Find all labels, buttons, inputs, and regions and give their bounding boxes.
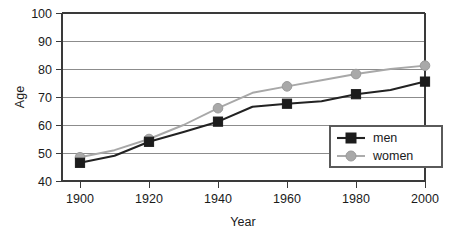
legend-women-label: women (372, 149, 413, 163)
y-tick-label-90: 90 (38, 35, 52, 49)
data-point-women-1980 (351, 69, 361, 79)
data-point-men-1960 (282, 99, 291, 108)
legend-women-marker (346, 151, 356, 161)
line-chart: 100 90 80 70 60 50 40 1900 1920 1940 196… (0, 0, 449, 239)
y-tick-label-80: 80 (38, 63, 52, 77)
data-point-women-2000 (420, 61, 430, 71)
y-tick-label-40: 40 (38, 175, 52, 189)
x-axis-title: Year (230, 215, 255, 229)
data-point-men-1920 (144, 137, 153, 146)
legend-men-label: men (373, 131, 397, 145)
x-tick-label-1940: 1940 (204, 192, 232, 206)
data-point-men-2000 (420, 77, 429, 86)
data-point-women-1940 (213, 103, 223, 113)
data-point-men-1940 (213, 117, 222, 126)
x-tick-label-1980: 1980 (342, 192, 370, 206)
legend[interactable]: men women (330, 126, 442, 167)
data-point-men-1980 (351, 90, 360, 99)
x-tick-label-1960: 1960 (273, 192, 301, 206)
x-tick-label-1900: 1900 (66, 192, 94, 206)
y-tick-label-100: 100 (31, 7, 52, 21)
y-tick-label-70: 70 (38, 91, 52, 105)
y-tick-label-50: 50 (38, 147, 52, 161)
y-axis-title: Age (13, 86, 27, 108)
data-point-men-1900 (75, 158, 84, 167)
legend-men-marker (346, 133, 356, 143)
chart-canvas: 100 90 80 70 60 50 40 1900 1920 1940 196… (0, 0, 449, 239)
y-tick-label-60: 60 (38, 119, 52, 133)
x-tick-label-1920: 1920 (135, 192, 163, 206)
x-tick-label-2000: 2000 (411, 192, 439, 206)
data-point-women-1960 (282, 82, 292, 92)
